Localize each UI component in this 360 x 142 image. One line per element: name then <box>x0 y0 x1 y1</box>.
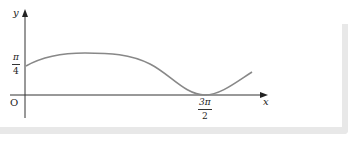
y-axis-label: y <box>13 8 19 18</box>
graph-canvas <box>0 0 360 142</box>
y-tick-denominator: 4 <box>13 65 19 76</box>
x-tick-denominator: 2 <box>202 110 208 121</box>
origin-label: O <box>10 98 18 108</box>
x-tick-numerator: 3π <box>198 98 212 109</box>
function-curve <box>26 53 252 95</box>
x-tick-label: 3π 2 <box>198 98 212 121</box>
y-axis-arrow-icon <box>22 9 28 17</box>
y-tick-label: π 4 <box>12 53 20 76</box>
y-tick-numerator: π <box>12 53 20 64</box>
x-axis-label: x <box>263 97 269 107</box>
